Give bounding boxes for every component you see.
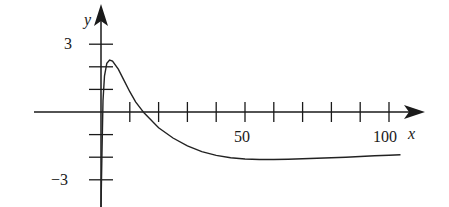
y-axis-label: y	[84, 12, 91, 28]
x-axis-label: x	[408, 126, 415, 142]
x-tick-label-50: 50	[234, 129, 250, 145]
y-tick-label-neg3: −3	[51, 172, 68, 188]
data-curve	[101, 60, 401, 207]
x-tick-label-100: 100	[373, 129, 397, 145]
y-tick-label-3: 3	[64, 36, 72, 52]
